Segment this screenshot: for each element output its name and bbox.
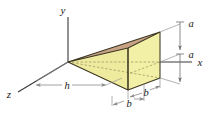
b-back-dimension-line-left — [130, 93, 142, 97]
a-upper-dimension-label: a — [188, 18, 193, 29]
a-leader-top — [160, 24, 180, 32]
a-lower-dimension-label: a — [188, 49, 193, 60]
b-front-dimension-line-left — [113, 101, 124, 105]
b-front-dimension-label: b — [126, 98, 131, 109]
dimension-a-stack — [160, 22, 184, 84]
b-back-dimension-label: b — [143, 87, 148, 98]
x-axis-label: x — [197, 56, 203, 68]
z-axis-label: z — [6, 88, 12, 100]
b-back-dimension-line-right — [150, 86, 160, 90]
figure-canvas: y x z h a a b b — [0, 0, 214, 118]
wedge-diagram: y x z h a a b b — [0, 0, 214, 118]
h-extension-upper — [36, 62, 68, 81]
y-axis-label: y — [60, 4, 66, 16]
a-leader-middle — [160, 54, 180, 62]
h-dimension-label: h — [64, 80, 69, 91]
a-leader-bottom — [160, 78, 180, 84]
